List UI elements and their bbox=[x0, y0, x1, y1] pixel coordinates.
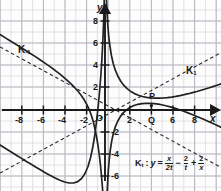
point-P-marker bbox=[150, 104, 153, 107]
curve-km1-lower-branch bbox=[107, 103, 221, 191]
intersection-markers bbox=[150, 104, 153, 107]
curve-label-k-1-sub: 1 bbox=[193, 70, 196, 76]
curve-k1-left-branch bbox=[0, 0, 105, 183]
curve-label-k-minus-1: K-1 bbox=[18, 45, 31, 55]
curve-label-k-minus-1-sub: -1 bbox=[25, 49, 30, 55]
y-axis-label: y bbox=[97, 3, 103, 13]
y-tick-label--4: -4 bbox=[111, 150, 119, 159]
formula-term-3: 2 x bbox=[198, 155, 204, 171]
formula-term-2-numerator: 2 bbox=[183, 155, 189, 163]
formula-term-1-numerator: x bbox=[166, 155, 172, 163]
x-axis-label: x bbox=[210, 114, 216, 124]
x-tick-label--6: -6 bbox=[37, 116, 45, 125]
x-tick-label-6: 6 bbox=[170, 116, 175, 125]
formula-term-2: 2 t bbox=[183, 155, 189, 171]
x-tick-label-2: 2 bbox=[127, 116, 132, 125]
formula-separator: : bbox=[146, 158, 149, 168]
function-graph-figure: -8 -6 -4 -2 2 6 8 8 6 4 2 -2 -4 -6 O x y… bbox=[0, 0, 221, 191]
x-tick-label-8: 8 bbox=[192, 116, 197, 125]
formula-family-label: Kt bbox=[135, 158, 144, 168]
formula-term-1-denominator: 2t bbox=[165, 163, 174, 172]
point-label-P: P bbox=[149, 92, 155, 101]
formula-term-3-numerator: 2 bbox=[198, 155, 204, 163]
y-tick-label-4: 4 bbox=[93, 61, 98, 70]
formula-label-sub: t bbox=[142, 162, 144, 168]
formula-lhs: y bbox=[151, 158, 156, 168]
curve-k1-right-branch bbox=[106, 0, 221, 98]
formula-expression: Kt: y = x 2t − 2 t + 2 x bbox=[135, 155, 204, 171]
curve-label-k-1: K1 bbox=[186, 66, 197, 76]
formula-term-1: x 2t bbox=[165, 155, 174, 171]
origin-label: O bbox=[96, 114, 103, 123]
formula-operator-1: − bbox=[175, 158, 180, 168]
formula-term-3-denominator: x bbox=[198, 163, 204, 172]
formula-term-2-denominator: t bbox=[184, 163, 189, 172]
x-tick-label--8: -8 bbox=[15, 116, 23, 125]
y-tick-label-8: 8 bbox=[93, 17, 98, 26]
y-tick-label-6: 6 bbox=[93, 39, 98, 48]
x-tick-label--2: -2 bbox=[80, 116, 88, 125]
y-tick-label--2: -2 bbox=[111, 128, 119, 137]
point-label-Q: Q bbox=[148, 116, 155, 125]
y-tick-label--6: -6 bbox=[111, 172, 119, 181]
formula-operator-2: + bbox=[191, 158, 196, 168]
formula-equals: = bbox=[158, 158, 163, 168]
y-tick-label-2: 2 bbox=[93, 83, 98, 92]
x-tick-label--4: -4 bbox=[58, 116, 66, 125]
